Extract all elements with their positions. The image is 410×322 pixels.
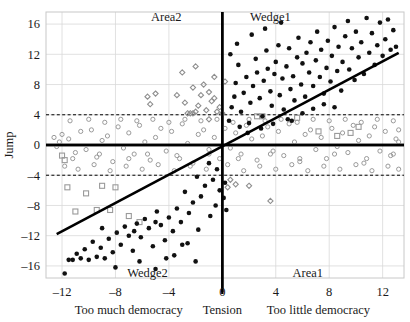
marker-point bbox=[332, 25, 337, 30]
marker-point bbox=[378, 20, 383, 25]
marker-point bbox=[319, 47, 324, 52]
marker-point bbox=[153, 220, 158, 225]
marker-point bbox=[318, 75, 323, 80]
marker-point bbox=[193, 259, 198, 264]
marker-point bbox=[354, 29, 359, 34]
marker-point bbox=[239, 109, 244, 114]
x-tick-label: –12 bbox=[52, 285, 72, 299]
marker-point bbox=[335, 69, 340, 74]
marker-point bbox=[180, 242, 185, 247]
marker-point bbox=[388, 47, 393, 52]
marker-point bbox=[86, 258, 91, 263]
marker-point bbox=[137, 259, 142, 264]
marker-point bbox=[207, 161, 212, 166]
marker-point bbox=[248, 100, 253, 105]
marker-point bbox=[196, 227, 201, 232]
marker-point bbox=[143, 217, 148, 222]
caption-too-little-democracy: Too little democracy bbox=[267, 303, 371, 317]
y-tick-label: –4 bbox=[27, 169, 41, 183]
marker-point bbox=[367, 51, 372, 56]
marker-point bbox=[285, 117, 290, 122]
marker-point bbox=[295, 55, 300, 60]
marker-point bbox=[269, 103, 274, 108]
plot-canvas: 1612840–4–8–12–16–12–8–404812JumpArea2We… bbox=[0, 0, 410, 322]
marker-point bbox=[291, 74, 296, 79]
marker-point bbox=[151, 244, 156, 249]
marker-point bbox=[237, 125, 242, 130]
marker-point bbox=[228, 52, 233, 57]
x-tick-label: –8 bbox=[108, 285, 122, 299]
marker-point bbox=[346, 19, 351, 24]
marker-point bbox=[90, 239, 95, 244]
marker-point bbox=[255, 70, 260, 75]
caption-too-much-democracy: Too much democracy bbox=[75, 303, 184, 317]
marker-point bbox=[175, 206, 180, 211]
marker-point bbox=[300, 61, 305, 66]
marker-point bbox=[244, 75, 249, 80]
marker-point bbox=[171, 229, 176, 234]
marker-point bbox=[356, 55, 361, 60]
marker-point bbox=[332, 105, 337, 110]
y-axis-title: Jump bbox=[2, 131, 16, 158]
marker-point bbox=[203, 184, 208, 189]
marker-point bbox=[123, 224, 128, 229]
marker-point bbox=[155, 209, 160, 214]
marker-point bbox=[66, 258, 71, 263]
marker-point bbox=[308, 40, 313, 45]
marker-point bbox=[383, 37, 388, 42]
marker-point bbox=[110, 250, 115, 255]
marker-point bbox=[70, 258, 75, 263]
y-tick-label: 8 bbox=[34, 78, 40, 92]
marker-point bbox=[263, 26, 268, 31]
marker-point bbox=[74, 252, 79, 257]
annotation-area2: Area2 bbox=[151, 10, 182, 24]
marker-point bbox=[273, 60, 278, 65]
marker-point bbox=[139, 235, 144, 240]
marker-point bbox=[227, 119, 232, 124]
marker-point bbox=[271, 122, 276, 127]
marker-point bbox=[289, 119, 294, 124]
marker-point bbox=[94, 255, 99, 260]
marker-point bbox=[284, 64, 289, 69]
marker-point bbox=[215, 167, 220, 172]
y-tick-label: 12 bbox=[28, 48, 41, 62]
marker-point bbox=[213, 203, 218, 208]
marker-point bbox=[211, 177, 216, 182]
marker-point bbox=[326, 38, 331, 43]
y-tick-label: –16 bbox=[20, 259, 40, 273]
marker-point bbox=[163, 238, 168, 243]
marker-point bbox=[299, 82, 304, 87]
x-tick-label: 4 bbox=[273, 285, 280, 299]
marker-point bbox=[82, 247, 87, 252]
annotation-wedge1: Wedge1 bbox=[250, 10, 291, 24]
marker-point bbox=[300, 111, 305, 116]
marker-point bbox=[347, 67, 352, 72]
marker-point bbox=[340, 60, 345, 65]
marker-point bbox=[249, 32, 254, 37]
marker-point bbox=[314, 58, 319, 63]
marker-point bbox=[224, 208, 229, 213]
marker-point bbox=[292, 98, 297, 103]
marker-point bbox=[343, 34, 348, 39]
marker-point bbox=[336, 44, 341, 49]
marker-point bbox=[296, 35, 301, 40]
marker-point bbox=[78, 256, 83, 261]
marker-point bbox=[247, 121, 252, 126]
marker-point bbox=[241, 91, 246, 96]
y-tick-label: 4 bbox=[34, 108, 41, 122]
x-tick-label: 0 bbox=[219, 285, 225, 299]
marker-point bbox=[164, 256, 169, 261]
marker-point bbox=[208, 214, 213, 219]
annotation-wedge2: Wedge2 bbox=[127, 266, 168, 280]
marker-point bbox=[251, 84, 256, 89]
marker-point bbox=[375, 43, 380, 48]
x-tick-label: 12 bbox=[376, 285, 389, 299]
marker-point bbox=[339, 88, 344, 93]
marker-point bbox=[394, 44, 399, 49]
marker-point bbox=[265, 66, 270, 71]
marker-point bbox=[315, 29, 320, 34]
marker-point bbox=[179, 220, 184, 225]
y-tick-label: 16 bbox=[28, 17, 41, 31]
marker-point bbox=[131, 248, 136, 253]
marker-point bbox=[102, 256, 107, 261]
